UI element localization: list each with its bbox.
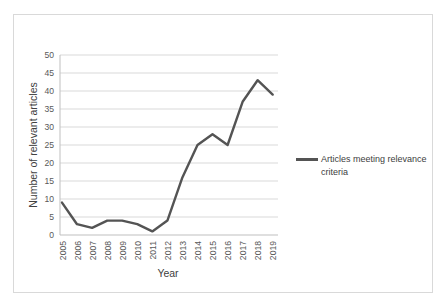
legend-label-line1: Articles meeting relevance: [321, 154, 427, 164]
y-tick-label: 5: [49, 212, 54, 222]
x-tick-label: 2012: [163, 241, 173, 260]
y-tick-label: 40: [44, 86, 54, 96]
y-tick-label: 0: [49, 230, 54, 240]
line-chart-figure: 0510152025303540455020052006200720082009…: [0, 0, 444, 306]
x-tick-label: 2010: [133, 241, 143, 260]
y-tick-label: 25: [44, 140, 54, 150]
x-tick-label: 2016: [223, 241, 233, 260]
x-tick-label: 2014: [193, 241, 203, 260]
x-tick-label: 2006: [73, 241, 83, 260]
legend-label-line2: criteria: [321, 167, 348, 177]
x-tick-label: 2018: [253, 241, 263, 260]
x-tick-label: 2017: [238, 241, 248, 260]
y-tick-label: 10: [44, 194, 54, 204]
x-tick-label: 2015: [208, 241, 218, 260]
legend-label: Articles meeting relevance criteria: [321, 153, 427, 179]
x-tick-label: 2019: [268, 241, 278, 260]
legend-marker-line: [296, 158, 318, 161]
y-axis-title: Number of relevant articles: [27, 55, 41, 235]
x-tick-label: 2005: [58, 241, 68, 260]
y-tick-label: 50: [44, 50, 54, 60]
y-tick-label: 15: [44, 176, 54, 186]
x-tick-label: 2013: [178, 241, 188, 260]
series-line: [62, 80, 273, 231]
y-tick-label: 45: [44, 68, 54, 78]
y-tick-label: 30: [44, 122, 54, 132]
legend: Articles meeting relevance criteria: [296, 153, 428, 179]
x-tick-label: 2011: [148, 241, 158, 260]
x-tick-label: 2007: [88, 241, 98, 260]
y-tick-label: 35: [44, 104, 54, 114]
x-tick-label: 2009: [118, 241, 128, 260]
x-axis-title: Year: [128, 267, 208, 279]
x-tick-label: 2008: [103, 241, 113, 260]
y-tick-label: 20: [44, 158, 54, 168]
